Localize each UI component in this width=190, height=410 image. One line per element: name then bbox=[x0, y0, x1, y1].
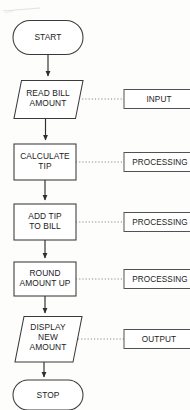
node-round-amount-up[interactable] bbox=[14, 262, 76, 296]
node-display-new-amount[interactable] bbox=[15, 316, 82, 362]
annotation-processing-2[interactable] bbox=[124, 212, 190, 232]
node-read-bill-amount[interactable] bbox=[14, 80, 83, 119]
node-calculate-tip[interactable] bbox=[14, 144, 76, 180]
scan-artifact-line bbox=[3, 8, 40, 11]
node-start[interactable] bbox=[13, 20, 83, 55]
annotation-output[interactable] bbox=[124, 329, 190, 349]
scan-artifact-line-2 bbox=[5, 11, 13, 13]
annotation-processing-1[interactable] bbox=[124, 152, 190, 172]
node-add-tip-to-bill[interactable] bbox=[14, 204, 76, 240]
node-stop[interactable] bbox=[13, 380, 83, 410]
annotation-processing-3[interactable] bbox=[124, 269, 190, 289]
annotation-input[interactable] bbox=[124, 89, 190, 109]
flowchart-canvas: START READ BILL AMOUNT CALCULATE TIP ADD… bbox=[0, 0, 190, 410]
